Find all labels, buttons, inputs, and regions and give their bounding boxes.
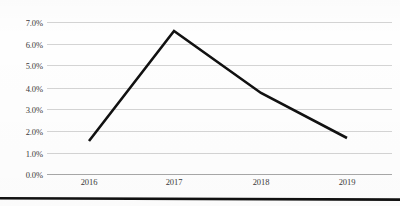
bottom-rule-divider (0, 194, 400, 204)
line-chart-figure: 7.0% 6.0% 5.0% 4.0% 3.0% 2.0% 1.0% 0.0% … (0, 0, 400, 206)
data-series-line (0, 0, 400, 206)
plot-area: 7.0% 6.0% 5.0% 4.0% 3.0% 2.0% 1.0% 0.0% … (0, 0, 400, 206)
